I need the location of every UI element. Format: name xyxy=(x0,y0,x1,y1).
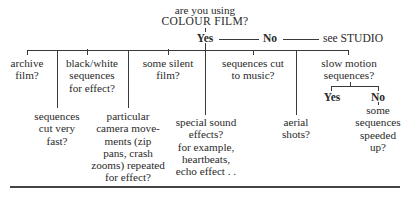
subbranch-sound: special sound effects? for example, hear… xyxy=(170,116,242,177)
branch-silent: some silent film? xyxy=(136,57,200,82)
branch-music: sequences cut to music? xyxy=(214,57,292,82)
connector-no-studio xyxy=(283,39,319,40)
connector-yes-no xyxy=(219,39,259,40)
bottom-rule xyxy=(10,186,400,188)
answer-no: No xyxy=(259,32,281,44)
tick-slow-motion xyxy=(348,50,349,55)
tick-archive xyxy=(27,50,28,55)
tick-music xyxy=(253,50,254,55)
answer-no-target: see STUDIO xyxy=(320,33,386,45)
tick-silent xyxy=(168,49,169,55)
tick-black-white xyxy=(87,49,88,55)
yes-trunk xyxy=(205,43,206,115)
root-question-line2: COLOUR FILM? xyxy=(140,16,270,28)
subbranch-aerial: aerial shots? xyxy=(272,116,320,141)
main-branch-bar xyxy=(27,50,349,51)
slow-motion-no-child: some sequences speeded up? xyxy=(350,104,405,153)
subbranch-cut-fast: sequences cut very fast? xyxy=(30,110,84,147)
branch-archive: archive film? xyxy=(4,57,50,82)
branch-slow-motion: slow motion sequences? xyxy=(314,57,384,82)
subbranch-camera: particular camera move- ments (zip pans,… xyxy=(88,110,168,184)
slow-motion-yes: Yes xyxy=(320,91,344,103)
root-question: are you using COLOUR FILM? xyxy=(140,4,270,29)
slow-motion-bar xyxy=(331,86,379,87)
branch-black-white: black/white sequences for effect? xyxy=(58,57,126,94)
drop-aerial xyxy=(296,50,297,115)
drop-camera xyxy=(128,50,129,108)
